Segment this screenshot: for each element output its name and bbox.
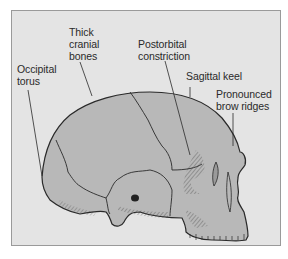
- label-occipital-torus: Occipital torus: [17, 63, 56, 87]
- label-postorbital-constriction: Postorbital constriction: [138, 38, 190, 62]
- label-sagittal-keel: Sagittal keel: [186, 70, 242, 82]
- label-thick-cranial-bones: Thick cranial bones: [69, 26, 99, 62]
- ear-opening: [131, 195, 139, 202]
- label-pronounced-brow-ridges: Pronounced brow ridges: [216, 88, 272, 112]
